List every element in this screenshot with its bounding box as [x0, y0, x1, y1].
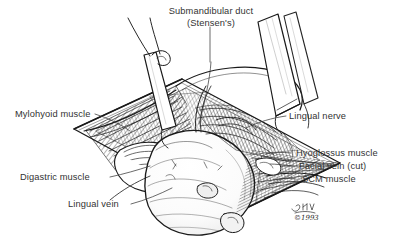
label-digastric-muscle: Digastric muscle [20, 172, 90, 184]
label-lingual-vein: Lingual vein [68, 199, 119, 211]
label-lingual-nerve: Lingual nerve [289, 111, 346, 123]
label-hyoglossus-muscle: Hyoglossus muscle [296, 148, 378, 160]
label-scm-muscle: SCM muscle [302, 174, 356, 186]
label-submandibular-duct-line1: Submandibular duct [163, 6, 259, 18]
label-facial-vein-cut: Facial vein (cut) [299, 161, 366, 173]
anatomical-figure: Submandibular duct (Stensen's) Mylohyoid… [0, 0, 410, 245]
label-mylohyoid-muscle: Mylohyoid muscle [15, 109, 91, 121]
label-submandibular-duct: Submandibular duct (Stensen's) [163, 6, 259, 29]
copyright-mark: ©1993 [294, 214, 319, 222]
illustration-artwork [0, 0, 410, 245]
label-submandibular-duct-line2: (Stensen's) [163, 18, 259, 30]
